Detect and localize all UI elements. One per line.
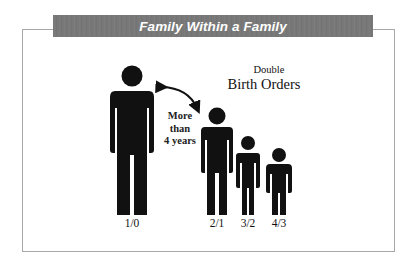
gap-annotation-line-1: More — [160, 110, 200, 123]
figure-label-3: 3/2 — [233, 217, 263, 229]
figure-label-2: 2/1 — [202, 217, 232, 229]
figure-label-1: 1/0 — [117, 217, 147, 229]
gap-annotation-line-2: than — [160, 123, 200, 136]
person-icon-1-0 — [110, 66, 154, 216]
person-icon-3-2 — [236, 136, 260, 215]
heading-line-1: Double — [239, 64, 299, 75]
gap-annotation-line-3: 4 years — [160, 135, 200, 148]
person-icon-4-3 — [266, 148, 292, 215]
figure-label-4: 4/3 — [264, 217, 294, 229]
curved-double-arrow-icon — [162, 87, 197, 108]
gap-annotation: More than 4 years — [160, 110, 200, 148]
person-icon-2-1 — [201, 108, 233, 216]
heading-line-2: Birth Orders — [224, 76, 304, 93]
